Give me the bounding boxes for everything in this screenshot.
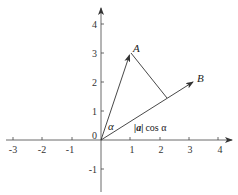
x-tick-label: 3 <box>188 144 193 155</box>
point-a-label: A <box>132 42 140 54</box>
projection-norm: |a| <box>134 122 143 133</box>
y-tick-label: 2 <box>92 77 97 88</box>
x-tick-label: -3 <box>9 144 17 155</box>
projection-cos: cos α <box>145 122 167 133</box>
x-tick-label: 4 <box>218 144 223 155</box>
perpendicular-line <box>131 53 167 98</box>
y-tick-label: -1 <box>89 164 97 175</box>
x-tick-label: 1 <box>130 144 135 155</box>
x-tick-label: 2 <box>159 144 164 155</box>
vector-projection-diagram: -3 -2 -1 1 2 3 4 -1 1 2 3 4 0 A B α |a|c… <box>0 0 238 195</box>
x-tick-label: -2 <box>38 144 46 155</box>
y-tick-label: 4 <box>92 19 97 30</box>
vector-oa <box>101 55 130 140</box>
x-axis: -3 -2 -1 1 2 3 4 <box>6 137 232 155</box>
y-tick-label: 1 <box>92 106 97 117</box>
angle-alpha-label: α <box>108 120 114 132</box>
y-tick-label: 3 <box>92 48 97 59</box>
projection-label: |a|cos α <box>134 122 167 133</box>
point-b-label: B <box>197 72 204 84</box>
origin-label: 0 <box>92 130 97 141</box>
x-tick-label: -1 <box>66 144 74 155</box>
y-axis: -1 1 2 3 4 0 <box>89 8 104 192</box>
